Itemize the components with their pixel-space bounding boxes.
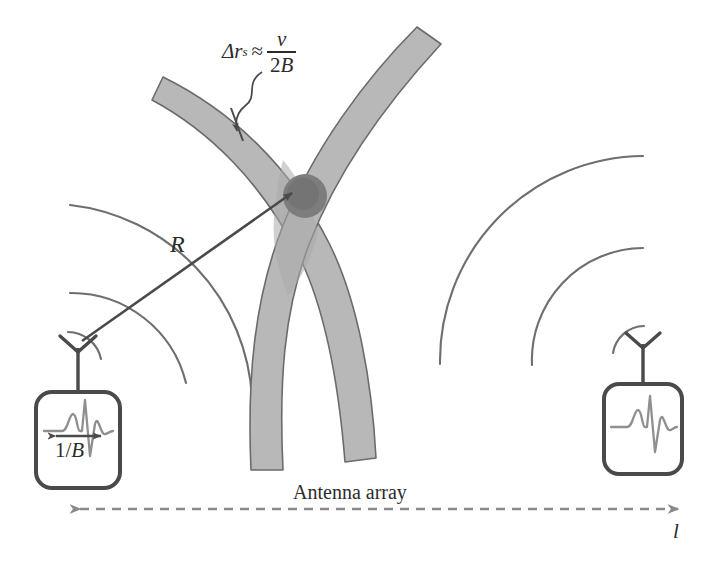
formula-denominator: 2B: [267, 54, 296, 76]
radar-resolution-diagram: Δrs ≈ v 2B R 1/B Antenna array l: [0, 0, 710, 568]
formula-lhs: Δr: [222, 41, 243, 62]
formula-relation: ≈: [252, 41, 264, 62]
right-antenna-dipole-arm-a: [626, 333, 643, 348]
formula-fraction: v 2B: [267, 28, 296, 76]
wavefront-arc-right-2: [532, 248, 643, 365]
formula-denominator-coefficient: 2: [270, 53, 281, 77]
formula-denominator-variable: B: [281, 53, 294, 77]
formula-lhs-subscript: s: [243, 45, 248, 58]
left-antenna-receiver: [36, 336, 120, 488]
formula-numerator: v: [273, 28, 290, 50]
pulse-width-label: 1/B: [55, 440, 84, 461]
left-antenna-dipole-arm-a: [60, 336, 78, 352]
formula-leader-line: [236, 72, 262, 131]
left-antenna-wavefronts: [68, 205, 252, 398]
wavefront-arc-left-3: [70, 205, 252, 398]
right-antenna-wavefronts: [440, 156, 644, 365]
pulse-width-denominator: B: [71, 438, 84, 462]
wavefront-arc-right-1: [613, 326, 644, 353]
right-antenna-dipole-arm-b: [643, 333, 660, 348]
wavefront-arc-right-3: [440, 156, 643, 364]
antenna-array-label: Antenna array: [293, 482, 407, 502]
right-antenna-receiver: [604, 333, 682, 474]
baseline-length-label: l: [673, 521, 679, 542]
resolution-formula-label: Δrs ≈ v 2B: [222, 28, 296, 76]
range-label: R: [170, 232, 185, 256]
pulse-width-numerator: 1: [55, 438, 66, 462]
